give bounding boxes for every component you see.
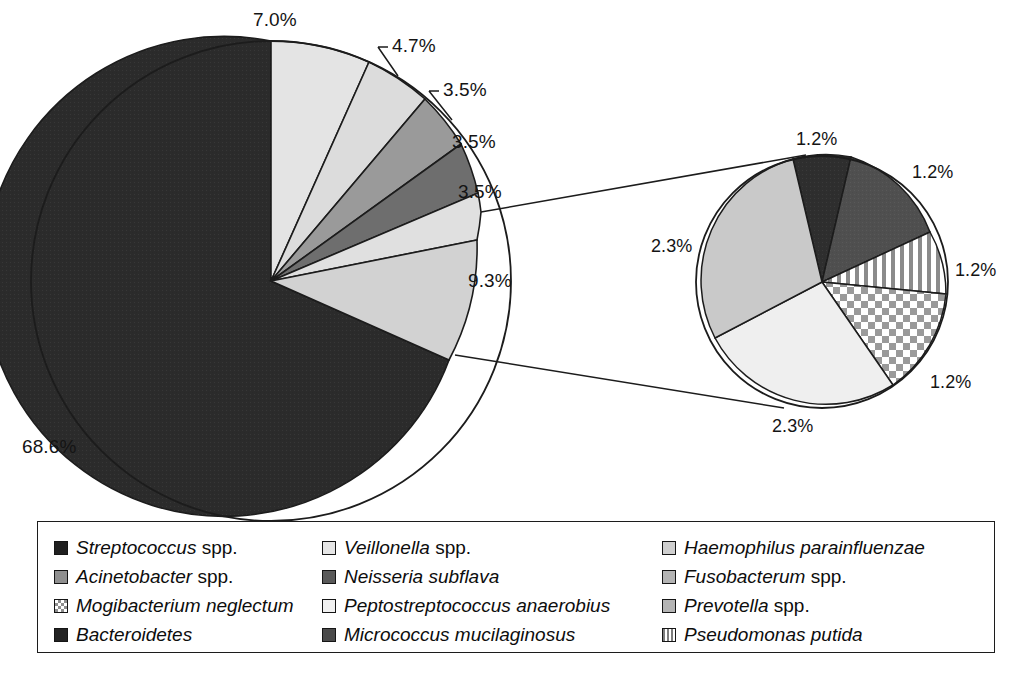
pct-label-veillonella: 7.0% xyxy=(253,10,297,29)
legend-item-micrococcus[interactable]: Micrococcus mucilaginosus xyxy=(322,620,662,649)
legend-grid: Streptococcus spp.Veillonella spp.Haemop… xyxy=(54,533,984,649)
legend-label-suffix: spp. xyxy=(192,566,233,587)
legend-swatch-solid-mid-light-gray xyxy=(662,570,676,584)
pct-label-haemophilus: 4.7% xyxy=(392,36,436,55)
pct-label-bacteroidetes: 1.2% xyxy=(796,130,837,148)
legend-label: Micrococcus mucilaginosus xyxy=(344,625,575,644)
legend-label: Prevotella spp. xyxy=(684,596,810,615)
legend-item-bacteroidetes[interactable]: Bacteroidetes xyxy=(54,620,322,649)
pct-label-prevotella: 2.3% xyxy=(651,237,692,255)
legend-item-pseudomonas[interactable]: Pseudomonas putida xyxy=(662,620,982,649)
pie-chart-figure: 7.0% 4.7% 3.5% 3.5% 3.5% 9.3% 68.6% 1.2%… xyxy=(0,0,1034,687)
legend-box: Streptococcus spp.Veillonella spp.Haemop… xyxy=(37,521,995,653)
legend-item-mogibacterium[interactable]: Mogibacterium neglectum xyxy=(54,591,322,620)
pct-label-neisseria: 3.5% xyxy=(452,132,496,151)
pct-label-peptostreptococcus: 2.3% xyxy=(772,417,813,435)
legend-label: Neisseria subflava xyxy=(344,567,499,586)
legend-swatch-solid-black xyxy=(54,541,68,555)
legend-label: Mogibacterium neglectum xyxy=(76,596,294,615)
legend-swatch-solid-very-light-gray xyxy=(322,541,336,555)
legend-item-haemophilus[interactable]: Haemophilus parainfluenzae xyxy=(662,533,982,562)
legend-label: Pseudomonas putida xyxy=(684,625,863,644)
legend-item-streptococcus[interactable]: Streptococcus spp. xyxy=(54,533,322,562)
legend-swatch-solid-dark xyxy=(322,628,336,642)
pct-label-pseudomonas: 1.2% xyxy=(955,261,996,279)
legend-label: Peptostreptococcus anaerobius xyxy=(344,596,610,615)
legend-swatch-solid-light-gray xyxy=(662,541,676,555)
legend-swatch-solid-near-white xyxy=(322,599,336,613)
pct-label-micrococcus: 1.2% xyxy=(912,163,953,181)
exploded-pie xyxy=(696,155,948,408)
legend-label: Bacteroidetes xyxy=(76,625,192,644)
legend-label: Veillonella spp. xyxy=(344,538,471,557)
legend-label: Acinetobacter spp. xyxy=(76,567,233,586)
pct-label-streptococcus: 68.6% xyxy=(22,437,76,456)
legend-swatch-solid-dark-gray xyxy=(322,570,336,584)
legend-label: Haemophilus parainfluenzae xyxy=(684,538,925,557)
legend-swatch-solid-mid-light-gray xyxy=(662,599,676,613)
legend-item-prevotella[interactable]: Prevotella spp. xyxy=(662,591,982,620)
legend-label-suffix: spp. xyxy=(769,595,810,616)
pct-label-fusobacterum: 3.5% xyxy=(458,182,502,201)
legend-label: Streptococcus spp. xyxy=(76,538,238,557)
main-pie xyxy=(0,36,511,521)
legend-swatch-checkerboard xyxy=(54,599,68,613)
legend-item-acinetobacter[interactable]: Acinetobacter spp. xyxy=(54,562,322,591)
legend-item-veillonella[interactable]: Veillonella spp. xyxy=(322,533,662,562)
legend-swatch-solid-very-dark xyxy=(54,628,68,642)
legend-label-suffix: spp. xyxy=(805,566,846,587)
pct-label-acinetobacter: 3.5% xyxy=(443,80,487,99)
legend-label-suffix: spp. xyxy=(430,537,471,558)
legend-item-neisseria[interactable]: Neisseria subflava xyxy=(322,562,662,591)
pct-label-mogibacterium: 1.2% xyxy=(930,373,971,391)
legend-item-fusobacterum[interactable]: Fusobacterum spp. xyxy=(662,562,982,591)
legend-label: Fusobacterum spp. xyxy=(684,567,847,586)
pct-label-other-group: 9.3% xyxy=(468,271,512,290)
legend-swatch-solid-medium-gray xyxy=(54,570,68,584)
legend-swatch-vertical-stripes xyxy=(662,628,676,642)
legend-item-peptostreptococcus[interactable]: Peptostreptococcus anaerobius xyxy=(322,591,662,620)
legend-label-suffix: spp. xyxy=(196,537,237,558)
